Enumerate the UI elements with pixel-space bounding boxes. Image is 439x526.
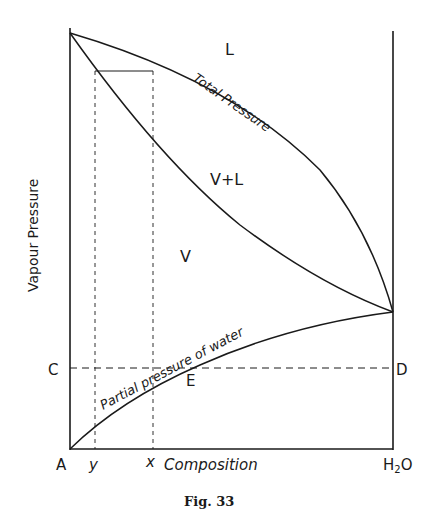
region-label-liquid: L (225, 40, 234, 59)
total-pressure-label: Total Pressure (190, 70, 273, 135)
composition-mark-y: y (88, 456, 99, 474)
y-axis-title: Vapour Pressure (25, 179, 41, 292)
phase-diagram: L V+L V Total Pressure Partial pressure … (0, 0, 439, 526)
point-label-e: E (186, 372, 195, 390)
water-o: O (401, 456, 413, 474)
composition-mark-x: x (145, 453, 155, 471)
figure-caption: Fig. 33 (184, 494, 234, 509)
point-label-c: C (48, 361, 58, 379)
water-h: H (383, 456, 394, 474)
x-axis-label-a: A (56, 456, 67, 474)
x-axis-title: Composition (164, 456, 258, 474)
x-axis-label-water: H2O (383, 456, 412, 475)
region-label-vapour: V (180, 247, 191, 266)
point-label-d: D (396, 361, 408, 379)
region-label-two-phase: V+L (210, 170, 243, 189)
